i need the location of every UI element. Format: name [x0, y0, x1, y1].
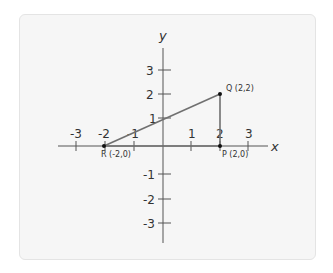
point-q-label: Q (2,2)	[226, 84, 254, 93]
y-tick-label: -2	[143, 193, 155, 207]
point-r	[102, 144, 106, 148]
y-tick-label: 2	[146, 88, 154, 102]
x-tick-label: -2	[98, 127, 110, 141]
y-tick-label: -3	[143, 217, 155, 231]
y-tick-labels: 3 2 1 -1 -2 -3	[143, 64, 157, 231]
x-axis-label: x	[270, 139, 279, 154]
point-q	[218, 92, 222, 96]
coordinate-plane: y x -3 -2 -1 1 2 3 3 2 1 -1 -2 -3	[0, 0, 333, 273]
x-tick-label: 1	[188, 127, 196, 141]
x-tick-label: -1	[127, 127, 139, 141]
point-r-label: R (-2,0)	[101, 150, 131, 159]
y-tick-label: -1	[143, 168, 155, 182]
y-axis-label: y	[158, 28, 167, 43]
x-tick-labels: -3 -2 -1 1 2 3	[70, 127, 253, 141]
y-tick-label: 3	[146, 64, 154, 78]
segment-rq	[104, 94, 220, 146]
point-p	[218, 144, 222, 148]
triangle-pqr	[104, 94, 220, 146]
point-p-label: P (2,0)	[222, 150, 248, 159]
x-tick-label: -3	[70, 127, 82, 141]
x-tick-label: 3	[245, 127, 253, 141]
